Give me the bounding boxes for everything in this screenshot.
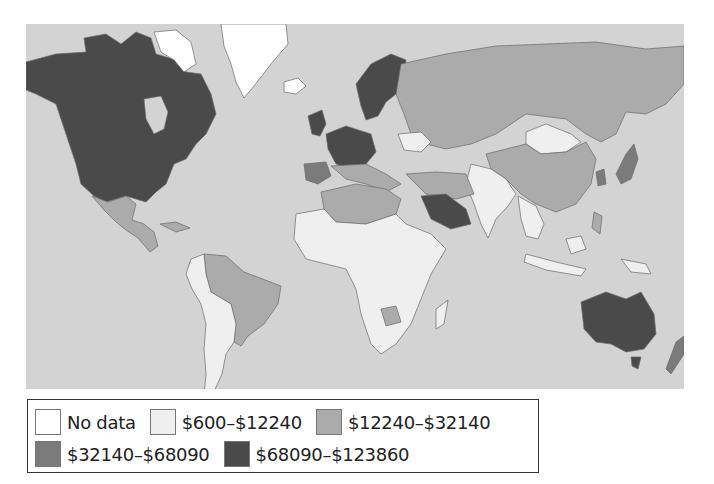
region-australia bbox=[581, 292, 656, 352]
legend-label: $32140–$68090 bbox=[67, 444, 210, 465]
region-new-zealand bbox=[666, 336, 684, 374]
legend-label: No data bbox=[67, 412, 136, 433]
legend-label: $12240–$32140 bbox=[348, 412, 491, 433]
region-indonesia bbox=[524, 254, 586, 276]
legend-item-no-data: No data bbox=[35, 409, 136, 435]
legend-item-level-3: $32140–$68090 bbox=[35, 441, 210, 467]
region-sub-saharan-africa bbox=[294, 209, 446, 354]
region-uk bbox=[308, 110, 326, 136]
legend-swatch-level-1 bbox=[150, 409, 176, 435]
legend-swatch-no-data bbox=[35, 409, 61, 435]
legend-swatch-level-3 bbox=[35, 441, 61, 467]
map-legend: No data $600–$12240 $12240–$32140 $32140… bbox=[27, 399, 539, 473]
region-iceland bbox=[284, 78, 306, 94]
legend-label: $68090–$123860 bbox=[256, 444, 410, 465]
legend-item-level-4: $68090–$123860 bbox=[224, 441, 410, 467]
region-papua-new-guinea bbox=[621, 259, 651, 274]
legend-item-level-1: $600–$12240 bbox=[150, 409, 302, 435]
legend-swatch-level-4 bbox=[224, 441, 250, 467]
legend-label: $600–$12240 bbox=[182, 412, 302, 433]
region-japan bbox=[616, 144, 638, 184]
region-western-europe bbox=[326, 126, 376, 169]
region-iberia bbox=[304, 162, 331, 184]
region-philippines bbox=[592, 212, 602, 234]
region-korea bbox=[596, 169, 606, 186]
region-mexico bbox=[92, 196, 158, 252]
legend-swatch-level-2 bbox=[316, 409, 342, 435]
world-map bbox=[26, 24, 684, 389]
region-tasmania bbox=[631, 357, 641, 369]
region-saudi-arabia bbox=[421, 194, 471, 229]
region-caribbean bbox=[160, 222, 190, 232]
region-madagascar bbox=[436, 300, 448, 329]
legend-item-level-2: $12240–$32140 bbox=[316, 409, 491, 435]
region-borneo bbox=[566, 236, 586, 254]
region-greenland bbox=[221, 24, 288, 98]
